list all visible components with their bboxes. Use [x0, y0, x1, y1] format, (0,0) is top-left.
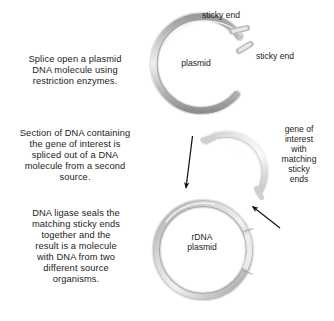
- step-text-dna-ligase-seals: DNA ligase seals the matching sticky end…: [6, 208, 146, 285]
- dna-fragment-arc: [203, 135, 265, 198]
- label-sticky-end-right: sticky end: [242, 51, 308, 61]
- step-text-splice-open-plasmid: Splice open a plasmid DNA molecule using…: [4, 54, 146, 87]
- step-text-excise-gene-of-interest: Section of DNA containing the gene of in…: [2, 128, 148, 183]
- label-gene-of-interest: gene of interest with matching sticky en…: [268, 124, 330, 184]
- fragment-sticky-end-start: [203, 138, 214, 140]
- label-plasmid: plasmid: [166, 58, 226, 68]
- recombinant-dna-diagram: Splice open a plasmid DNA molecule using…: [0, 0, 334, 321]
- sticky-end-lower-tip: [239, 44, 251, 51]
- arrow-plasmid-to-rdna: [186, 136, 193, 188]
- arrow-fragment-to-rdna: [253, 207, 281, 229]
- label-sticky-end-top: sticky end: [188, 10, 254, 20]
- sticky-end-upper-tip: [232, 28, 247, 32]
- label-rdna-plasmid: rDNA plasmid: [171, 232, 233, 253]
